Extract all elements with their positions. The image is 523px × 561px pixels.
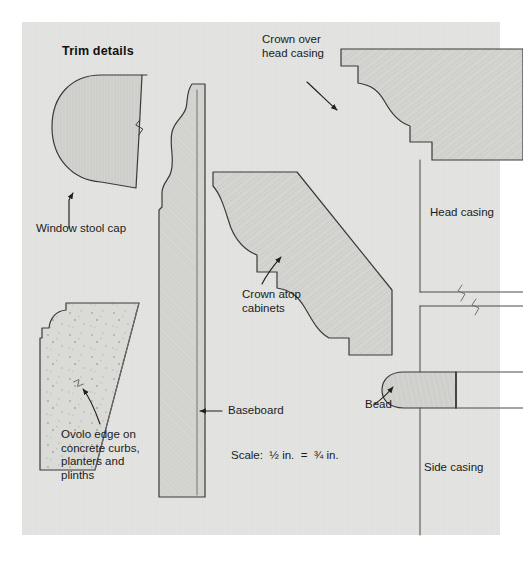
label-crown-atop-cabinets: Crown atop cabinets (242, 288, 301, 315)
label-window-stool-cap: Window stool cap (36, 222, 126, 236)
label-baseboard: Baseboard (228, 404, 284, 418)
label-head-casing: Head casing (430, 206, 494, 220)
figure-head-casing (420, 160, 523, 375)
label-scale: Scale: ½ in. = ¾ in. (231, 449, 339, 463)
figure-crown-over-head-casing (341, 49, 523, 160)
label-side-casing: Side casing (424, 461, 483, 475)
label-ovolo-edge: Ovolo edge on concrete curbs, planters a… (61, 428, 140, 482)
trim-details-figure: Trim details (0, 0, 523, 561)
label-bead: Bead (365, 398, 392, 412)
figure-baseboard (159, 84, 205, 497)
label-crown-over-head-casing: Crown over head casing (262, 33, 324, 60)
leader-crown-over-head-casing (307, 82, 337, 110)
figure-crown-atop-cabinets (213, 172, 392, 355)
figure-bead (382, 372, 456, 408)
figure-window-stool-cap (52, 75, 147, 188)
